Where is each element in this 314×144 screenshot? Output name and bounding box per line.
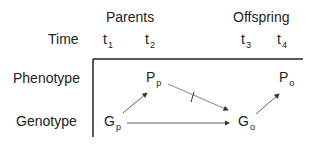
label-offspring: Offspring [233,10,290,24]
time-t2: t2 [145,32,155,46]
node-gp: Gp [104,114,121,128]
label-time: Time [48,32,79,46]
block-mark [191,92,194,102]
time-t4: t4 [277,32,287,46]
label-parents: Parents [106,10,154,24]
row-phenotype: Phenotype [13,71,80,85]
row-genotype: Genotype [16,114,77,128]
time-t3: t3 [241,32,251,46]
arrow-gp-pp [123,93,147,113]
node-po: Po [279,70,294,84]
time-t1: t1 [103,32,113,46]
node-pp: Pp [146,70,161,84]
arrow-go-po [256,94,279,114]
node-go: Go [238,114,255,128]
arrow-pp-go [168,84,228,110]
